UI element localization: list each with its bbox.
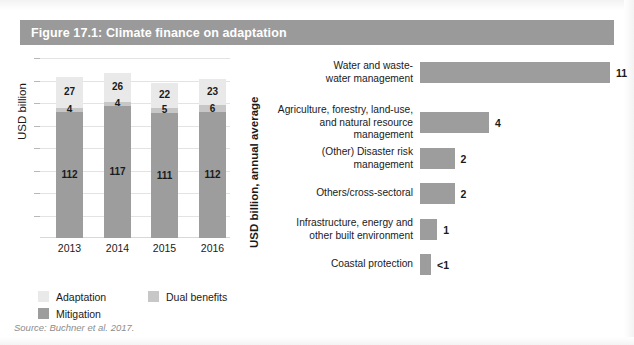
- right-chart-bars: Water and waste-water management11Agricu…: [266, 52, 630, 272]
- legend-swatch-dual-benefits-icon: [148, 291, 159, 302]
- bar-segment-value: 26: [112, 82, 123, 92]
- bar-segment-value: 117: [109, 167, 125, 177]
- legend-item-adaptation: Adaptation: [38, 291, 148, 303]
- stacked-bar: 236112: [199, 79, 226, 238]
- x-axis-label: 2015: [145, 242, 185, 254]
- bar-segment-value: 112: [61, 170, 77, 180]
- bar-value-label: 2: [461, 188, 467, 200]
- bar-value-label: 1: [443, 224, 449, 236]
- left-chart-x-axis-labels: 2013201420152016: [40, 242, 230, 258]
- bar-value-label: 4: [495, 117, 501, 129]
- bar-category-label: Water and waste-water management: [266, 60, 420, 85]
- stacked-bar-chart: USD billion 274112264117225111236112 201…: [14, 52, 236, 267]
- bar-segment-mitigation: 117: [104, 106, 131, 238]
- bar-value-label: 11: [616, 67, 627, 79]
- right-chart-y-axis-label: USD billion, annual average: [248, 97, 260, 248]
- bar: [420, 112, 489, 133]
- bar-segment-value: 23: [207, 87, 218, 97]
- x-axis-label: 2014: [98, 242, 138, 254]
- bar-row: Others/cross-sectoral2: [266, 183, 630, 204]
- bar-segment-mitigation: 112: [56, 112, 83, 238]
- left-chart-y-axis-label: USD billion: [16, 83, 28, 140]
- bar: [420, 183, 455, 204]
- bar-row: (Other) Disaster risk management2: [266, 146, 630, 171]
- chart-legend: Adaptation Dual benefits Mitigation: [38, 288, 258, 322]
- bar-row: Water and waste-water management11: [266, 60, 630, 85]
- legend-label-adaptation: Adaptation: [56, 291, 106, 303]
- bar-category-label: (Other) Disaster risk management: [266, 146, 420, 171]
- figure-title: Figure 17.1: Climate finance on adaptati…: [20, 26, 287, 40]
- legend-row-2: Mitigation: [38, 305, 258, 322]
- legend-row-1: Adaptation Dual benefits: [38, 288, 258, 305]
- bar-segment-value: 27: [64, 87, 75, 97]
- bar-segment-value: 112: [204, 170, 220, 180]
- bar-category-label: Agriculture, forestry, land-use,and natu…: [266, 104, 420, 142]
- bar-segment-value: 22: [159, 90, 170, 100]
- bar-value-label: 2: [461, 153, 467, 165]
- page-edge-artifact-top: [0, 0, 634, 10]
- legend-swatch-mitigation-icon: [38, 308, 49, 319]
- bar-category-label: Infrastructure, energy andother built en…: [266, 217, 420, 242]
- bar: [420, 219, 437, 240]
- bar-segment-value: 111: [157, 171, 173, 181]
- legend-item-mitigation: Mitigation: [38, 308, 148, 320]
- source-note: Source: Buchner et al. 2017.: [14, 322, 134, 333]
- legend-item-dual-benefits: Dual benefits: [148, 291, 227, 303]
- stacked-bar: 264117: [104, 73, 131, 238]
- bar-value-label: <1: [437, 259, 449, 271]
- bar-segment-adaptation: 23: [199, 79, 226, 105]
- bar-row: Coastal protection<1: [266, 254, 630, 275]
- bar-category-label: Others/cross-sectoral: [266, 187, 420, 200]
- left-chart-bars: 274112264117225111236112: [40, 58, 230, 238]
- bar-row: Agriculture, forestry, land-use,and natu…: [266, 104, 630, 142]
- x-axis-label: 2013: [50, 242, 90, 254]
- bar: [420, 62, 610, 83]
- legend-label-dual-benefits: Dual benefits: [166, 291, 227, 303]
- bar: [420, 148, 455, 169]
- bar-category-label: Coastal protection: [266, 258, 420, 271]
- x-axis-label: 2016: [193, 242, 233, 254]
- bar: [420, 254, 431, 275]
- figure-page: Figure 17.1: Climate finance on adaptati…: [0, 0, 634, 345]
- horizontal-bar-chart: USD billion, annual average Water and wa…: [244, 52, 630, 272]
- left-chart-plot-area: 274112264117225111236112: [40, 58, 230, 238]
- bar-segment-mitigation: 111: [151, 113, 178, 238]
- stacked-bar: 274112: [56, 77, 83, 238]
- legend-label-mitigation: Mitigation: [56, 308, 101, 320]
- legend-swatch-adaptation-icon: [38, 291, 49, 302]
- figure-title-bar: Figure 17.1: Climate finance on adaptati…: [20, 20, 614, 45]
- bar-segment-mitigation: 112: [199, 112, 226, 238]
- bar-row: Infrastructure, energy andother built en…: [266, 217, 630, 242]
- bar-segment-dual-benefits: 6: [199, 105, 226, 112]
- stacked-bar: 225111: [151, 83, 178, 238]
- page-edge-artifact-bottom: [0, 337, 634, 345]
